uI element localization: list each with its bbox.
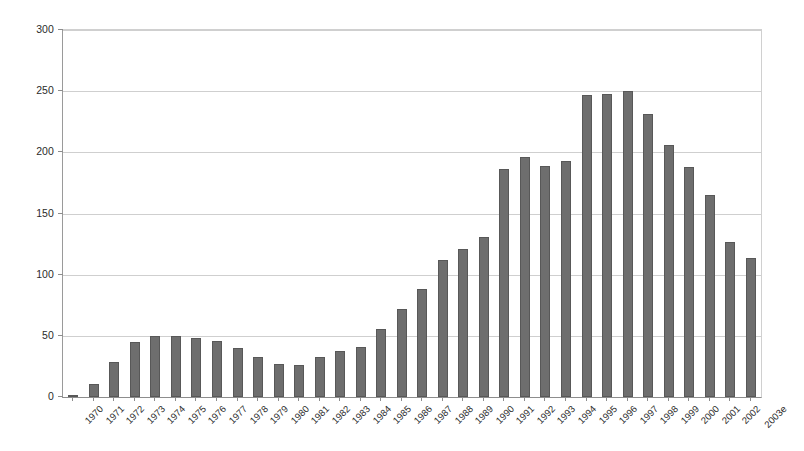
x-tick-label-1993: 1993: [555, 403, 578, 426]
y-tick-mark-300: [58, 29, 63, 30]
y-tick-label-50: 50: [20, 330, 54, 340]
x-tick-mark-1995: [586, 397, 587, 401]
x-tick-mark-1979: [257, 397, 258, 401]
x-tick-mark-1981: [298, 397, 299, 401]
y-tick-mark-100: [58, 274, 63, 275]
gridline-250: [63, 91, 761, 92]
x-tick-label-1996: 1996: [616, 403, 639, 426]
x-tick-mark-2000: [688, 397, 689, 401]
x-tick-label-1970: 1970: [83, 403, 106, 426]
x-tick-mark-1974: [154, 397, 155, 401]
x-tick-mark-2003e: [750, 397, 751, 401]
bar-1988: [438, 260, 448, 397]
x-tick-label-1994: 1994: [575, 403, 598, 426]
y-tick-label-0: 0: [20, 391, 54, 401]
x-tick-label-1999: 1999: [678, 403, 701, 426]
x-tick-label-2003e: 2003e: [762, 403, 789, 430]
y-tick-mark-250: [58, 90, 63, 91]
bar-1982: [315, 357, 325, 397]
bar-1978: [233, 348, 243, 397]
gridline-50: [63, 336, 761, 337]
bar-1985: [376, 329, 386, 398]
bar-1994: [561, 161, 571, 397]
x-tick-mark-1994: [565, 397, 566, 401]
x-tick-label-1979: 1979: [267, 403, 290, 426]
bar-1971: [89, 384, 99, 397]
x-tick-mark-1971: [93, 397, 94, 401]
bar-1998: [643, 114, 653, 397]
x-tick-mark-1997: [627, 397, 628, 401]
x-tick-label-1982: 1982: [329, 403, 352, 426]
y-tick-label-250: 250: [20, 85, 54, 95]
bar-1975: [171, 336, 181, 397]
bar-1970: [68, 395, 78, 397]
x-tick-label-1973: 1973: [144, 403, 167, 426]
bar-1991: [499, 169, 509, 397]
y-tick-label-150: 150: [20, 208, 54, 218]
y-tick-mark-50: [58, 335, 63, 336]
bar-1995: [582, 95, 592, 397]
x-tick-label-1974: 1974: [165, 403, 188, 426]
x-tick-mark-1970: [72, 397, 73, 401]
bar-1993: [540, 166, 550, 397]
gridline-150: [63, 214, 761, 215]
y-tick-label-200: 200: [20, 146, 54, 156]
bar-1987: [417, 289, 427, 397]
x-tick-label-1990: 1990: [493, 403, 516, 426]
bar-1979: [253, 357, 263, 397]
bar-2002: [725, 242, 735, 397]
x-tick-mark-1993: [544, 397, 545, 401]
x-tick-mark-1982: [319, 397, 320, 401]
x-tick-label-1995: 1995: [596, 403, 619, 426]
x-tick-label-1998: 1998: [657, 403, 680, 426]
x-tick-mark-1976: [195, 397, 196, 401]
x-tick-mark-1988: [442, 397, 443, 401]
x-tick-mark-1987: [421, 397, 422, 401]
x-tick-mark-1977: [216, 397, 217, 401]
y-tick-mark-150: [58, 213, 63, 214]
x-tick-label-1987: 1987: [432, 403, 455, 426]
x-tick-label-1976: 1976: [206, 403, 229, 426]
bar-2000: [684, 167, 694, 397]
x-tick-label-1986: 1986: [411, 403, 434, 426]
x-tick-label-1989: 1989: [473, 403, 496, 426]
bar-1972: [109, 362, 119, 397]
bar-2001: [705, 195, 715, 397]
y-tick-mark-0: [58, 396, 63, 397]
x-tick-label-1983: 1983: [349, 403, 372, 426]
bar-1973: [130, 342, 140, 397]
bar-chart: 0501001502002503001970197119721973197419…: [0, 0, 804, 451]
x-tick-mark-1998: [647, 397, 648, 401]
bar-1983: [335, 351, 345, 397]
x-tick-mark-2002: [729, 397, 730, 401]
x-tick-mark-1991: [503, 397, 504, 401]
x-tick-mark-1983: [339, 397, 340, 401]
x-tick-label-1985: 1985: [391, 403, 414, 426]
bar-1986: [397, 309, 407, 397]
x-tick-label-1980: 1980: [288, 403, 311, 426]
bar-1996: [602, 94, 612, 397]
x-tick-mark-1980: [278, 397, 279, 401]
gridline-300: [63, 30, 761, 31]
x-tick-label-1978: 1978: [247, 403, 270, 426]
x-tick-mark-1975: [175, 397, 176, 401]
x-tick-label-2001: 2001: [719, 403, 742, 426]
bar-1981: [294, 365, 304, 397]
x-tick-label-1975: 1975: [185, 403, 208, 426]
x-tick-mark-1996: [606, 397, 607, 401]
y-tick-mark-200: [58, 151, 63, 152]
bar-2003e: [746, 258, 756, 397]
x-tick-mark-1985: [380, 397, 381, 401]
bar-1984: [356, 347, 366, 397]
y-tick-label-300: 300: [20, 24, 54, 34]
bar-1999: [664, 145, 674, 397]
x-tick-label-1991: 1991: [514, 403, 537, 426]
x-tick-mark-1972: [113, 397, 114, 401]
x-tick-mark-1984: [360, 397, 361, 401]
x-tick-label-1988: 1988: [452, 403, 475, 426]
bar-1980: [274, 364, 284, 397]
x-tick-label-1972: 1972: [124, 403, 147, 426]
x-tick-label-1981: 1981: [308, 403, 331, 426]
x-tick-label-1977: 1977: [226, 403, 249, 426]
bar-1989: [458, 249, 468, 397]
